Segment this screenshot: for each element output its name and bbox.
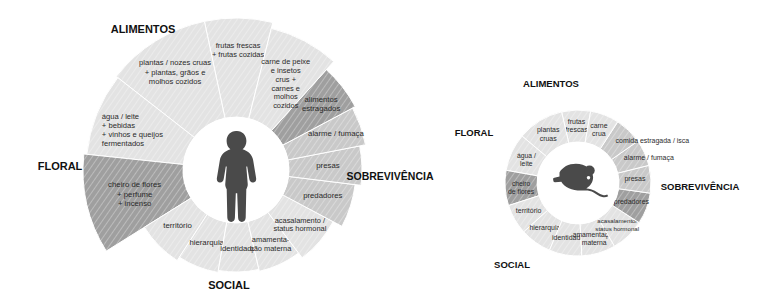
sector-label-line: predadores: [614, 198, 650, 206]
sector-label-line: crus +: [276, 75, 296, 84]
sector-label-line: alarme / fumaça: [624, 154, 674, 162]
sector-label-line: presas: [624, 175, 645, 183]
sector-label-line: acasalamento/: [597, 217, 637, 224]
sector-label-frutas: frutasfrescas: [565, 118, 588, 133]
sector-label-line: presas: [316, 161, 339, 170]
sector-label-alimentos-estragados: alimentosestragados: [302, 95, 341, 113]
category-label-floral: FLORAL: [455, 127, 494, 138]
sector-label-line: hierarquia: [529, 224, 560, 232]
sector-label-line: leite: [520, 160, 533, 167]
sector-label-line: estragados: [302, 104, 341, 113]
sector-label-alarme-fumaca: alarme / fumaça: [624, 154, 674, 162]
sector-label-line: carne: [590, 122, 608, 129]
sector-label-predadores: predadores: [303, 191, 342, 200]
sector-label-line: + bebidas: [102, 121, 135, 130]
sector-label-line: alimentos: [304, 95, 337, 104]
sector-label-line: + incenso: [118, 199, 151, 208]
sector-label-line: água / leite: [102, 112, 139, 121]
sector-label-line: cheiro de flores: [108, 180, 161, 189]
sector-label-territorio: território: [516, 207, 542, 214]
sector-label-line: status hormonal: [595, 225, 639, 232]
sector-label-carne-crua: carnecrua: [590, 122, 608, 137]
sector-label-territorio: território: [163, 221, 191, 230]
sector-label-line: e insetos: [271, 66, 301, 75]
sector-label-line: fermentados: [102, 139, 144, 148]
sector-label-line: + perfume: [117, 190, 152, 199]
sector-label-line: molhos: [274, 92, 298, 101]
category-label-floral: FLORAL: [38, 160, 83, 172]
sector-label-line: acasalamento /: [275, 216, 326, 225]
sector-label-line: ção materna: [250, 244, 292, 253]
sector-label-hierarquia: hierarquia: [529, 224, 560, 232]
category-label-social: SOCIAL: [494, 259, 530, 270]
sector-label-line: alarme / fumaça: [308, 129, 364, 138]
sector-label-line: frescas: [565, 126, 588, 133]
sector-label-plantas: plantas / nozes cruas+ plantas, grãos em…: [139, 58, 211, 85]
sector-label-presas: presas: [624, 175, 645, 183]
sector-label-line: plantas / nozes cruas: [139, 58, 211, 67]
category-label-sobrevivencia: SOBREVIVÊNCIA: [347, 170, 434, 182]
sector-label-line: + plantas, grãos e: [145, 68, 206, 77]
category-label-sobrevivencia: SOBREVIVÊNCIA: [661, 181, 740, 192]
category-label-alimentos: ALIMENTOS: [111, 23, 176, 35]
sector-label-line: molhos cozidos: [149, 77, 202, 86]
sector-label-line: amamenta-: [252, 235, 290, 244]
sector-label-line: + vinhos e queijos: [102, 130, 163, 139]
sector-label-line: frutas: [568, 118, 586, 125]
sector-label-line: status hormonal: [273, 224, 326, 233]
sector-label-line: plantas: [537, 126, 560, 134]
sector-label-line: território: [516, 207, 542, 214]
sector-label-line: crua: [592, 130, 606, 137]
category-label-alimentos: ALIMENTOS: [523, 78, 579, 89]
sector-label-line: carne de peixe: [261, 57, 310, 66]
sector-label-predadores: predadores: [614, 198, 650, 206]
sector-label-line: território: [163, 221, 191, 230]
category-label-social: SOCIAL: [208, 279, 250, 291]
sector-label-line: + frutas cozidas: [212, 50, 265, 59]
radial-diagram-pair: frutas frescas+ frutas cozidasplantas / …: [0, 0, 769, 298]
sector-label-line: água /: [517, 152, 536, 160]
sector-label-line: cozidos: [273, 101, 298, 110]
sector-label-line: frutas frescas: [216, 41, 261, 50]
sector-label-line: cruas: [540, 135, 558, 142]
sector-label-line: predadores: [303, 191, 342, 200]
sector-label-presas: presas: [316, 161, 339, 170]
sector-label-plantas: plantascruas: [537, 126, 560, 141]
sector-label-comida-estragada: comida estragada / isca: [616, 137, 690, 145]
sector-label-acasalamento: acasalamento/status hormonal: [595, 217, 639, 231]
sector-label-line: comida estragada / isca: [616, 137, 690, 145]
sector-label-frutas: frutas frescas+ frutas cozidas: [212, 41, 265, 59]
sector-label-acasalamento: acasalamento /status hormonal: [273, 216, 326, 234]
sector-label-line: materna: [582, 239, 607, 246]
sector-label-line: de flores: [508, 188, 535, 195]
sector-label-amamentacao: amamenta-ção materna: [250, 235, 292, 253]
sector-label-line: carnes e: [271, 84, 300, 93]
sector-label-line: cheiro: [512, 180, 531, 187]
sector-label-alarme-fumaca: alarme / fumaça: [308, 129, 364, 138]
